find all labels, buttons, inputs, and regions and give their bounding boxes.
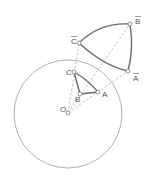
point-c-bar [77, 41, 81, 45]
label-b-bar: B [135, 17, 140, 26]
point-a-bar [126, 69, 130, 73]
point-b-bar [128, 22, 132, 26]
label-a: A [102, 90, 108, 99]
label-b: B [75, 95, 80, 104]
label-a-bar: A [133, 74, 139, 83]
point-a [96, 90, 100, 94]
label-c-bar: C [71, 37, 77, 46]
point-c [72, 70, 76, 74]
label-o: O [60, 105, 66, 114]
image-triangle [79, 24, 132, 71]
point-o [66, 111, 70, 115]
label-c: C [66, 68, 72, 77]
inversion-diagram: O A B C A B C [0, 0, 151, 179]
